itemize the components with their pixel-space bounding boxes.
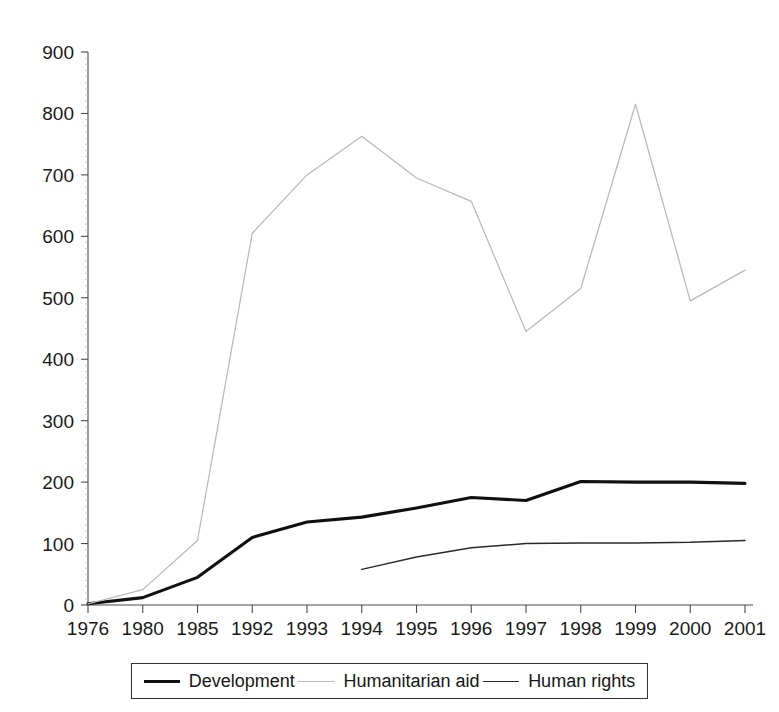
y-tick-label: 600 (42, 226, 74, 247)
legend-label-development: Development (189, 672, 295, 690)
x-tick-label: 1985 (176, 618, 218, 639)
legend-line-swatch-human-rights (483, 681, 519, 682)
y-tick-label: 400 (42, 349, 74, 370)
legend-line-swatch-development (144, 680, 180, 683)
legend-line-swatch-humanitarian-aid (298, 681, 334, 682)
x-tick-label: 1998 (560, 618, 602, 639)
x-tick-label: 1997 (505, 618, 547, 639)
y-tick-label: 100 (42, 534, 74, 555)
x-tick-label: 1976 (67, 618, 109, 639)
series-line-human-rights (362, 540, 745, 569)
x-tick-label: 1993 (286, 618, 328, 639)
line-chart-svg: 0100200300400500600700800900 19761980198… (0, 0, 779, 650)
y-axis: 0100200300400500600700800900 (42, 42, 88, 616)
y-tick-label: 500 (42, 288, 74, 309)
x-tick-label: 2001 (724, 618, 766, 639)
plot-area: 0100200300400500600700800900 19761980198… (0, 0, 779, 650)
y-tick-label: 0 (63, 595, 74, 616)
x-tick-label: 1992 (231, 618, 273, 639)
y-tick-label: 900 (42, 42, 74, 63)
chart-page: 0100200300400500600700800900 19761980198… (0, 0, 779, 712)
y-tick-label: 200 (42, 472, 74, 493)
y-tick-label: 300 (42, 411, 74, 432)
x-tick-label: 1999 (614, 618, 656, 639)
x-tick-label: 2000 (669, 618, 711, 639)
legend-item-humanitarian-aid[interactable]: Humanitarian aid (298, 672, 479, 690)
chart-legend: Development Humanitarian aid Human right… (131, 663, 648, 699)
y-tick-label: 700 (42, 165, 74, 186)
legend-item-development[interactable]: Development (144, 672, 295, 690)
legend-label-humanitarian-aid: Humanitarian aid (343, 672, 479, 690)
x-axis: 1976198019851992199319941995199619971998… (67, 605, 766, 639)
x-tick-label: 1980 (122, 618, 164, 639)
x-tick-label: 1996 (450, 618, 492, 639)
y-tick-label: 800 (42, 103, 74, 124)
series-line-humanitarian-aid (88, 104, 745, 604)
x-tick-label: 1995 (395, 618, 437, 639)
data-series-group (88, 104, 745, 604)
legend-label-human-rights: Human rights (528, 672, 635, 690)
x-tick-label: 1994 (341, 618, 384, 639)
legend-item-human-rights[interactable]: Human rights (483, 672, 635, 690)
